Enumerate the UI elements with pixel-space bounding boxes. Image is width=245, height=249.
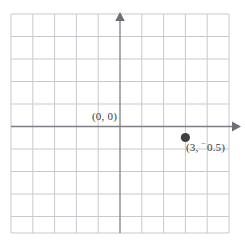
coordinate-plane-svg xyxy=(0,0,245,249)
axes xyxy=(11,12,241,233)
point-label-prefix: (3, xyxy=(186,141,201,153)
point-label-value: 0.5) xyxy=(207,141,225,153)
coordinate-plane-graph: (0, 0) (3, ⁻0.5) xyxy=(0,0,245,249)
origin-label: (0, 0) xyxy=(92,110,117,122)
x-axis-arrowhead-icon xyxy=(232,122,241,132)
y-axis-arrowhead-icon xyxy=(115,12,125,21)
point-label: (3, ⁻0.5) xyxy=(186,140,225,153)
